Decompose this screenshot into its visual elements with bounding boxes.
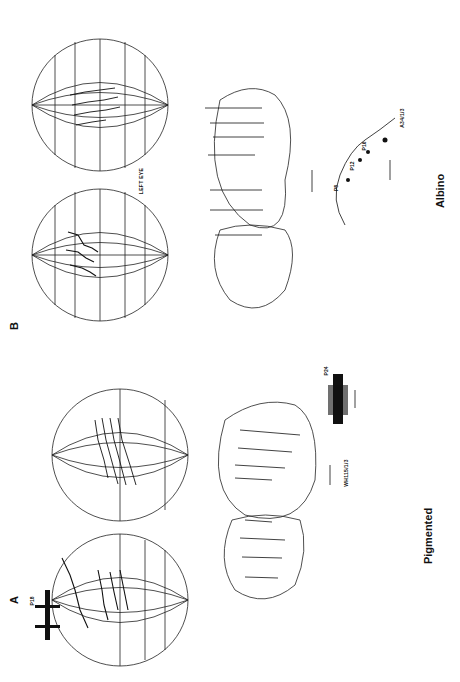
panel-label-a: A: [8, 596, 20, 604]
recording-label-p8: P8: [333, 185, 339, 191]
tracks-b-lower: [66, 232, 98, 276]
condition-label-a: Pigmented: [422, 508, 434, 564]
tracks-b-upper: [70, 88, 120, 125]
panel-label-b: B: [8, 322, 20, 330]
specimen-label-b: A34/1/3: [399, 108, 405, 128]
condition-label-b: Albino: [434, 174, 446, 208]
figure-drawing: [0, 0, 460, 682]
globe-a-upper: [52, 389, 188, 521]
recording-trace-p24: [328, 374, 348, 424]
lobe-tracks-a: [235, 430, 300, 578]
recording-label-p18: P18: [29, 597, 35, 606]
penetration-track-b: [336, 118, 395, 225]
tracks-a-upper: [95, 418, 136, 485]
eye-label: LEFT EYE: [138, 168, 144, 194]
specimen-label-a: WH115/1/3: [343, 459, 349, 486]
recording-label-p24: P24: [323, 367, 329, 376]
lobe-tracks-b: [205, 108, 264, 235]
lobe-map-a: [218, 402, 316, 599]
globe-b-lower: [32, 189, 168, 321]
globe-a-lower: [52, 534, 188, 666]
recording-label-p12: P12: [349, 162, 355, 171]
globe-b-upper: [32, 39, 168, 171]
lobe-map-b: [214, 89, 292, 308]
tracks-a-lower: [62, 558, 128, 628]
recording-label-p16: P16: [361, 142, 367, 151]
